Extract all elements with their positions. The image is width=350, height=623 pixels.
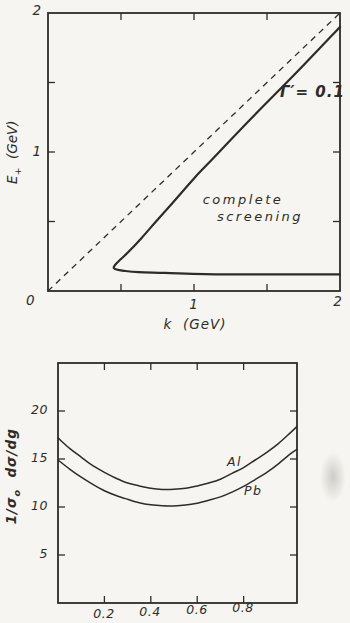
al-curve-label: Al [227, 456, 242, 469]
top-x-tick-label-2: 2 [330, 295, 346, 309]
top-x-tick-label-1: 1 [186, 298, 202, 312]
top-y-axis-title-subscript: + [12, 168, 23, 176]
bottom-y-tick-label-5: 5 [24, 548, 48, 561]
bottom-x-tick-label-06: 0.6 [181, 604, 213, 617]
top-x-axis-title: k (GeV) [150, 318, 240, 332]
-0-1-contour-curve [114, 27, 340, 275]
top-y-axis-title-symbol: E [4, 176, 20, 185]
bottom-x-tick-label-02: 0.2 [88, 608, 120, 621]
bottom-y-tick-label-20: 20 [24, 404, 48, 417]
al-curve [58, 426, 297, 489]
bottom-y-axis-title: 1/σo dσ/dg [5, 416, 22, 536]
bottom-y-axis-title-p1: 1/σ [3, 497, 19, 525]
scan-smudge [320, 452, 346, 502]
bottom-y-axis-title-subscript: o [11, 489, 22, 497]
diagonal-e-k-curve [48, 13, 340, 291]
bottom-y-tick-label-15: 15 [24, 452, 48, 465]
pb-curve-label: Pb [244, 485, 262, 498]
top-y-tick-label-1: 1 [20, 145, 42, 159]
bottom-x-tick-label-08: 0.8 [227, 602, 259, 615]
top-y-axis-title: E+ (GeV) [6, 104, 23, 200]
bottom-x-tick-label-04: 0.4 [134, 606, 166, 619]
figure-canvas: 2 1 0 1 2 E+ (GeV) k (GeV) Γ′= 0.1 compl… [0, 0, 350, 623]
top-y-axis-title-unit: (GeV) [4, 120, 20, 167]
gamma-curve-label: Γ′= 0.1 [280, 85, 345, 100]
top-y-tick-label-2: 2 [20, 4, 42, 18]
annotation-complete: complete [198, 193, 288, 206]
bottom-y-tick-label-10: 10 [24, 500, 48, 513]
top-origin-label: 0 [26, 294, 36, 308]
annotation-screening: screening [215, 210, 305, 223]
bottom-y-axis-title-p2: dσ/dg [3, 428, 19, 489]
